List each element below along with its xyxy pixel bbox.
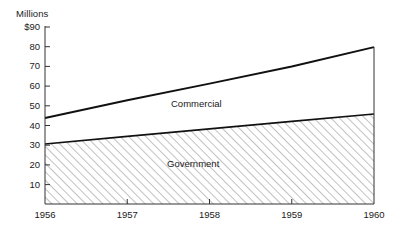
y-tick-label-30: 30 [4, 140, 40, 150]
chart-plot-svg [0, 0, 394, 232]
series-annotation-government: Government [167, 158, 219, 169]
y-tick-label-90: $90 [4, 22, 40, 32]
y-tick-label-70: 70 [4, 61, 40, 71]
y-tick-label-20: 20 [4, 160, 40, 170]
series-annotation-commercial: Commercial [171, 98, 222, 109]
x-tick-label-1959: 1959 [270, 209, 314, 220]
y-tick-label-60: 60 [4, 81, 40, 91]
y-tick-label-40: 40 [4, 121, 40, 131]
y-tick-label-50: 50 [4, 101, 40, 111]
x-tick-label-1958: 1958 [188, 209, 232, 220]
y-axis-unit-label: Millions [16, 8, 48, 19]
x-tick-label-1956: 1956 [23, 209, 67, 220]
chart-container: Millions $90 80 70 60 50 40 30 20 10 195… [0, 0, 394, 232]
y-tick-label-80: 80 [4, 42, 40, 52]
x-tick-label-1960: 1960 [352, 209, 394, 220]
y-tick-label-10: 10 [4, 180, 40, 190]
x-tick-label-1957: 1957 [105, 209, 149, 220]
